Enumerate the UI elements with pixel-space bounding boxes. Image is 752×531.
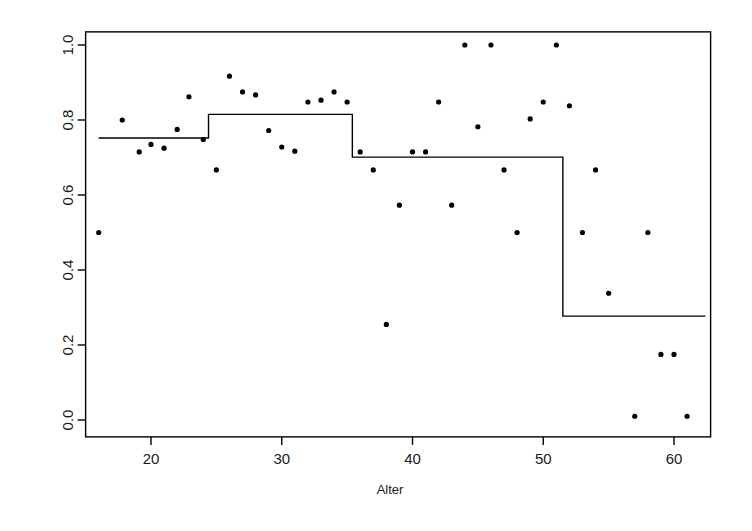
- data-point: [384, 322, 389, 327]
- data-point: [488, 42, 493, 47]
- data-point: [253, 92, 258, 97]
- plot-frame: [86, 32, 711, 437]
- data-point: [410, 149, 415, 154]
- data-point: [148, 142, 153, 147]
- x-tick-label: 50: [535, 450, 552, 467]
- data-point: [214, 167, 219, 172]
- data-point: [423, 149, 428, 154]
- y-tick-label: 0.8: [59, 110, 76, 131]
- data-points: [96, 42, 690, 418]
- data-point: [462, 42, 467, 47]
- data-point: [96, 230, 101, 235]
- x-tick-label: 60: [666, 450, 683, 467]
- data-point: [501, 167, 506, 172]
- y-tick-label: 0.6: [59, 185, 76, 206]
- data-point: [266, 128, 271, 133]
- data-point: [279, 144, 284, 149]
- data-point: [436, 99, 441, 104]
- data-point: [671, 352, 676, 357]
- data-point: [292, 149, 297, 154]
- data-point: [240, 89, 245, 94]
- data-point: [345, 99, 350, 104]
- y-axis-ticks: [78, 45, 86, 420]
- data-point: [331, 89, 336, 94]
- data-point: [475, 124, 480, 129]
- chart-canvas: 2030405060 0.00.20.40.60.81.0 Alter: [0, 0, 752, 531]
- y-tick-label: 1.0: [59, 35, 76, 56]
- data-point: [528, 116, 533, 121]
- data-point: [371, 167, 376, 172]
- data-point: [593, 167, 598, 172]
- x-tick-label: 40: [404, 450, 421, 467]
- data-point: [541, 99, 546, 104]
- data-point: [358, 149, 363, 154]
- data-point: [632, 414, 637, 419]
- data-point: [120, 117, 125, 122]
- y-tick-label: 0.2: [59, 335, 76, 356]
- data-point: [318, 98, 323, 103]
- step-function-line: [99, 114, 706, 316]
- y-tick-label: 0.0: [59, 410, 76, 431]
- x-tick-label: 30: [273, 450, 290, 467]
- x-axis-label: Alter: [377, 482, 404, 497]
- data-point: [645, 230, 650, 235]
- data-point: [684, 414, 689, 419]
- step-polyline: [99, 114, 706, 316]
- data-point: [658, 352, 663, 357]
- data-point: [161, 146, 166, 151]
- data-point: [305, 99, 310, 104]
- y-axis-tick-labels: 0.00.20.40.60.81.0: [59, 35, 76, 431]
- data-point: [186, 94, 191, 99]
- data-point: [175, 127, 180, 132]
- data-point: [554, 42, 559, 47]
- x-axis-tick-labels: 2030405060: [143, 450, 683, 467]
- x-tick-label: 20: [143, 450, 160, 467]
- data-point: [137, 149, 142, 154]
- data-point: [227, 74, 232, 79]
- scatter-plot: 2030405060 0.00.20.40.60.81.0 Alter: [0, 0, 752, 531]
- x-axis-ticks: [151, 437, 674, 445]
- data-point: [515, 230, 520, 235]
- data-point: [580, 230, 585, 235]
- data-point: [397, 203, 402, 208]
- data-point: [449, 203, 454, 208]
- data-point: [606, 291, 611, 296]
- data-point: [567, 103, 572, 108]
- y-tick-label: 0.4: [59, 260, 76, 281]
- data-point: [201, 137, 206, 142]
